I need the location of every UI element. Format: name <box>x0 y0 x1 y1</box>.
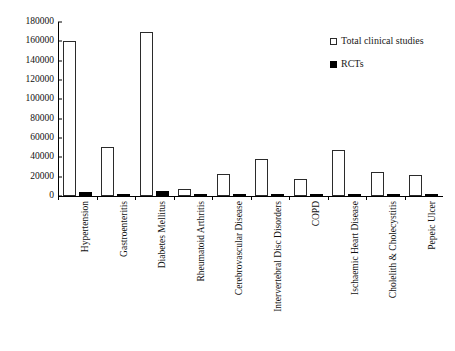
bar-rcts <box>233 194 246 196</box>
y-axis-tick-label: 100000 <box>26 95 59 105</box>
x-axis-category-label: Rheumatoid Arthritis <box>197 201 207 281</box>
bar-total-clinical-studies <box>63 41 76 196</box>
bar-group <box>174 22 213 196</box>
y-axis-tick-label: 20000 <box>30 172 58 182</box>
legend-label-rct: RCTs <box>341 59 364 69</box>
bar-rcts <box>387 194 400 196</box>
bar-rcts <box>425 194 438 196</box>
y-axis-tick-label: 40000 <box>30 153 58 163</box>
bar-total-clinical-studies <box>178 189 191 196</box>
legend-label-total: Total clinical studies <box>341 36 424 46</box>
y-axis-tick-label: 160000 <box>26 37 59 47</box>
bar-rcts <box>156 191 169 196</box>
x-axis-category-label: Diabetes Mellitus <box>158 201 168 268</box>
y-axis-tick-label: 0 <box>49 191 58 201</box>
x-axis-category-label: Intervertebral Disc Disorders <box>274 201 284 312</box>
x-axis-category-label: Hypertension <box>81 201 91 252</box>
x-axis-tick-mark <box>58 196 59 200</box>
x-axis-tick-mark <box>405 196 406 200</box>
x-axis-category-label: Gastroenteritis <box>120 201 130 257</box>
bar-total-clinical-studies <box>371 172 384 196</box>
bar-rcts <box>348 194 361 196</box>
hollow-square-icon <box>330 38 337 45</box>
y-axis-tick-label: 120000 <box>26 75 59 85</box>
x-axis-category-label: Cerebrovascular Disease <box>235 201 245 295</box>
bar-rcts <box>310 194 323 196</box>
x-axis-category-label: COPD <box>312 201 322 226</box>
bar-chart: 0200004000060000800001000001200001400001… <box>0 0 455 351</box>
bar-total-clinical-studies <box>294 179 307 196</box>
x-axis-tick-mark <box>328 196 329 200</box>
legend-item-total: Total clinical studies <box>330 36 424 46</box>
bar-group <box>251 22 290 196</box>
x-axis-tick-mark <box>135 196 136 200</box>
bar-total-clinical-studies <box>332 150 345 196</box>
bar-total-clinical-studies <box>217 174 230 196</box>
bar-group <box>97 22 136 196</box>
x-axis-tick-mark <box>212 196 213 200</box>
x-axis-category-label: Cholelith & Cholecystitis <box>389 201 399 298</box>
bar-rcts <box>271 194 284 196</box>
bar-total-clinical-studies <box>140 32 153 196</box>
bar-rcts <box>117 194 130 196</box>
bar-group <box>135 22 174 196</box>
bar-rcts <box>194 194 207 196</box>
x-axis-tick-mark <box>251 196 252 200</box>
chart-legend: Total clinical studies RCTs <box>330 36 424 82</box>
bar-rcts <box>79 192 92 196</box>
y-axis-tick-label: 180000 <box>26 17 59 27</box>
x-axis-tick-mark <box>174 196 175 200</box>
x-axis-tick-mark <box>289 196 290 200</box>
bar-total-clinical-studies <box>255 159 268 196</box>
legend-item-rct: RCTs <box>330 59 424 69</box>
bar-total-clinical-studies <box>409 175 422 196</box>
y-axis-tick-label: 140000 <box>26 56 59 66</box>
x-axis-category-label: Ischaemic Heart Disease <box>351 201 361 295</box>
x-axis-tick-mark <box>366 196 367 200</box>
bar-group <box>289 22 328 196</box>
bar-group <box>58 22 97 196</box>
bar-group <box>212 22 251 196</box>
y-axis-tick-label: 60000 <box>30 133 58 143</box>
filled-square-icon <box>330 61 337 68</box>
x-axis-category-label: Pepeic Ulcer <box>428 201 438 250</box>
y-axis-tick-label: 80000 <box>30 114 58 124</box>
x-axis-tick-mark <box>97 196 98 200</box>
bar-total-clinical-studies <box>101 147 114 196</box>
